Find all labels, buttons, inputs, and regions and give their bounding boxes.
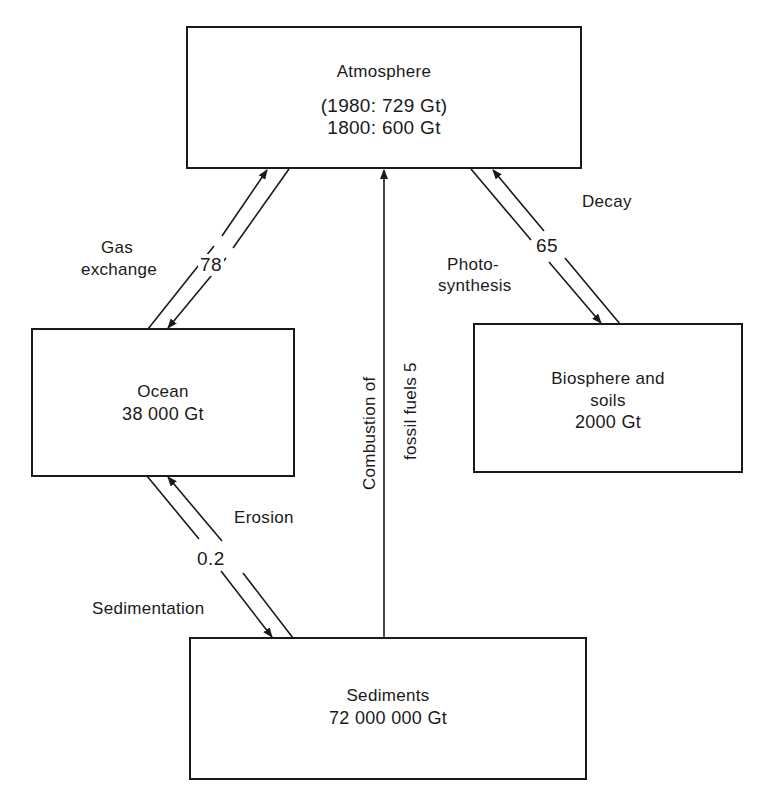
biosphere-exchange-value: 65	[534, 235, 560, 257]
sedimentation-label: Sedimentation	[92, 597, 205, 620]
photosynthesis-label-line2: synthesis	[438, 274, 512, 297]
decay-label: Decay	[582, 190, 632, 213]
photosynthesis-label-line1: Photo-	[447, 253, 499, 276]
biosphere-title: Biosphere and	[475, 367, 741, 390]
sediments-box: Sediments 72 000 000 Gt	[189, 637, 587, 780]
atmosphere-title: Atmosphere	[188, 60, 580, 83]
sedimentation-arrow	[147, 476, 199, 539]
erosion-arrow	[243, 573, 293, 638]
erosion-label: Erosion	[234, 506, 294, 529]
gas-exchange-label-line2: exchange	[81, 258, 157, 281]
combustion-label-line1: Combustion of	[360, 376, 380, 490]
atmosphere-1800-value: 1800: 600 Gt	[188, 116, 580, 139]
atmosphere-1980-value: (1980: 729 Gt)	[188, 94, 580, 117]
atmosphere-box: Atmosphere (1980: 729 Gt) 1800: 600 Gt	[186, 26, 582, 169]
biosphere-box: Biosphere and soils 2000 Gt	[473, 323, 743, 473]
sediments-value: 72 000 000 Gt	[191, 707, 585, 730]
gas-exchange-label-line1: Gas	[101, 236, 133, 259]
gas-exchange-value: 78	[198, 254, 224, 276]
sediments-title: Sediments	[191, 684, 585, 707]
ocean-box: Ocean 38 000 Gt	[31, 328, 295, 477]
combustion-label-line2: fossil fuels 5	[401, 362, 421, 460]
ocean-title: Ocean	[33, 380, 293, 403]
biosphere-value: 2000 Gt	[475, 411, 741, 434]
biosphere-subtitle: soils	[475, 389, 741, 412]
sediment-exchange-value: 0.2	[195, 548, 227, 570]
ocean-value: 38 000 Gt	[33, 403, 293, 426]
